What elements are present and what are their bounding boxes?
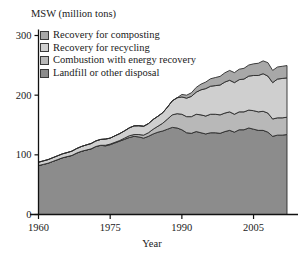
- legend-item-composting: Recovery for composting: [40, 29, 240, 42]
- legend-swatch-landfill: [40, 69, 49, 78]
- chart-legend: Recovery for composting Recovery for rec…: [40, 29, 240, 79]
- legend-label-recycling: Recovery for recycling: [53, 42, 150, 55]
- legend-item-combustion: Combustion with energy recovery: [40, 54, 240, 67]
- chart-figure: MSW (million tons) 010020030019601975199…: [0, 0, 304, 261]
- legend-label-landfill: Landfill or other disposal: [53, 67, 159, 80]
- area-series-group: [39, 61, 288, 215]
- x-tick-label-1990: 1990: [171, 222, 192, 233]
- legend-label-combustion: Combustion with energy recovery: [53, 54, 196, 67]
- legend-swatch-recycling: [40, 43, 49, 52]
- y-tick-label-100: 100: [16, 149, 32, 160]
- legend-item-landfill: Landfill or other disposal: [40, 67, 240, 80]
- legend-label-composting: Recovery for composting: [53, 29, 160, 42]
- legend-swatch-combustion: [40, 56, 49, 65]
- x-tick-label-2005: 2005: [243, 222, 264, 233]
- x-tick-label-1960: 1960: [28, 222, 49, 233]
- x-tick-label-1975: 1975: [100, 222, 121, 233]
- area-landfill-or-other-disposal: [39, 127, 288, 214]
- x-axis-title: Year: [0, 238, 304, 249]
- y-tick-label-300: 300: [16, 30, 32, 41]
- legend-item-recycling: Recovery for recycling: [40, 42, 240, 55]
- legend-swatch-composting: [40, 31, 49, 40]
- y-tick-label-0: 0: [26, 209, 31, 220]
- y-tick-label-200: 200: [16, 90, 32, 101]
